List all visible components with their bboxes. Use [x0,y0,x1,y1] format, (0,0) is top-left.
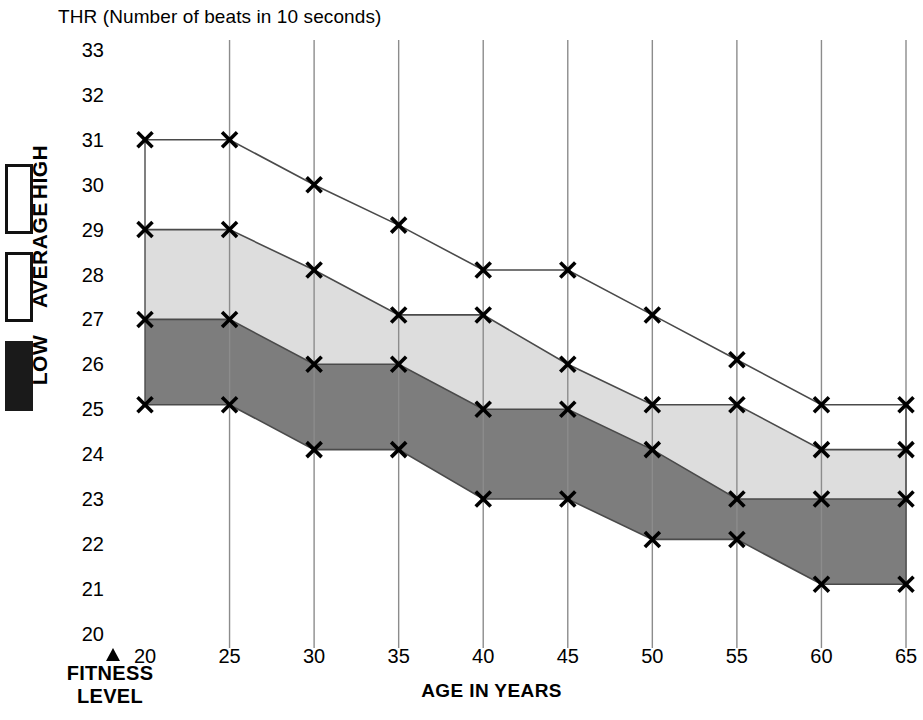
chart-figure: THR (Number of beats in 10 seconds) 3332… [0,0,923,720]
legend-label-average: AVERAGE [28,218,52,308]
legend: HIGH AVERAGE LOW FITNESS LEVEL [0,0,130,720]
fitness-level-caption: FITNESS LEVEL [30,662,190,708]
legend-label-low: LOW [28,315,52,405]
plot-svg [0,0,923,720]
plot-area [0,0,923,720]
fitness-level-caption-line2: LEVEL [30,685,190,708]
fitness-level-arrow-icon [106,648,120,661]
band-group [145,230,906,585]
fitness-level-caption-line1: FITNESS [30,662,190,685]
x-axis-title-text: AGE IN YEARS [421,680,562,701]
